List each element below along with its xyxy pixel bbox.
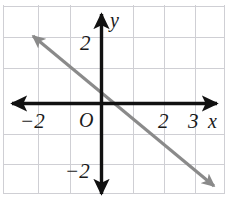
graph-canvas: y x O −2 2 3 2 −2 <box>0 0 229 203</box>
x-tick-label-two: 2 <box>158 109 169 133</box>
coordinate-plane-figure: y x O −2 2 3 2 −2 <box>0 0 229 203</box>
y-axis-label: y <box>108 9 119 32</box>
x-tick-label-three: 3 <box>187 109 199 133</box>
y-tick-label-two: 2 <box>80 31 91 55</box>
origin-label: O <box>79 109 93 131</box>
x-tick-label-neg-two: −2 <box>20 109 45 133</box>
y-tick-label-neg-two: −2 <box>65 159 90 183</box>
x-axis-label: x <box>207 110 217 132</box>
